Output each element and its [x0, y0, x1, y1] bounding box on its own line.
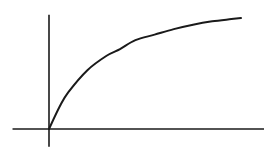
series-line-saturating-curve: [49, 18, 241, 129]
chart: [0, 0, 278, 156]
